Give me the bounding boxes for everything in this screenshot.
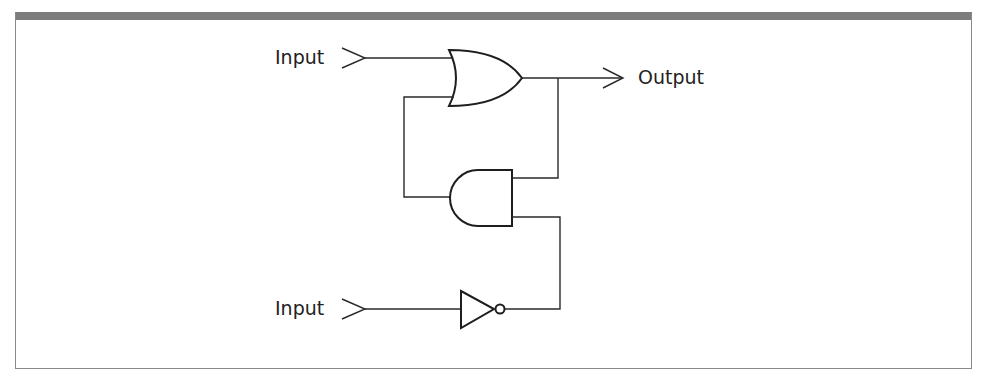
not-gate-icon (461, 291, 505, 328)
input-bottom-connector-icon (342, 299, 461, 319)
logic-circuit-diagram (0, 0, 982, 381)
not-to-and-wire (505, 217, 560, 309)
feedback-wire (512, 78, 558, 178)
or-gate-icon (449, 50, 522, 106)
output-connector-icon (522, 68, 623, 88)
and-gate-icon (450, 170, 512, 226)
and-to-or-wire (404, 97, 454, 197)
input-top-connector-icon (342, 48, 454, 68)
